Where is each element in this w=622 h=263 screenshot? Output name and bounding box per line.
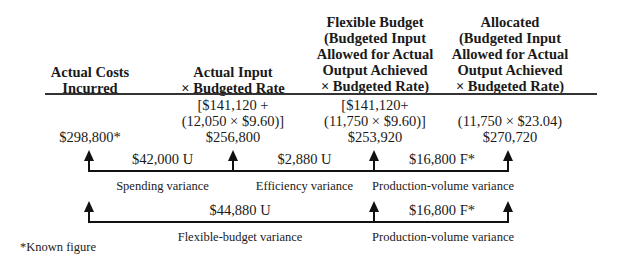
column-header-actual-input: Actual Input × Budgeted Rate	[173, 64, 293, 96]
variance-flexible-budget-amount: $44,880 U	[180, 202, 300, 218]
header-line: Actual Input	[173, 64, 293, 80]
amount-allocated: $270,720	[444, 129, 576, 145]
header-line: Allocated	[444, 14, 576, 30]
computation-flexible-line2: (11,750 × $9.60)]	[309, 113, 441, 129]
computation-flexible-line1: [$141,120+	[309, 97, 441, 113]
column-header-flexible-budget: Flexible Budget (Budgeted Input Allowed …	[309, 14, 441, 94]
header-line: Allowed for Actual	[444, 46, 576, 62]
header-line: × Budgeted Rate)	[444, 78, 576, 94]
footnote: *Known figure	[20, 239, 96, 255]
variance-spending-amount: $42,000 U	[100, 151, 225, 167]
header-line: (Budgeted Input	[309, 30, 441, 46]
bracket-horizontal	[88, 170, 509, 172]
header-line: Output Achieved	[444, 62, 576, 78]
variance-production-volume-label-2: Production-volume variance	[368, 229, 518, 245]
header-line: × Budgeted Rate)	[309, 78, 441, 94]
header-line: Output Achieved	[309, 62, 441, 78]
amount-actual-input: $256,800	[173, 129, 293, 145]
variance-efficiency-amount: $2,880 U	[242, 151, 367, 167]
computation-actual-input-line2: (12,050 × $9.60)]	[173, 113, 293, 129]
header-line: (Budgeted Input	[444, 30, 576, 46]
header-line: Flexible Budget	[309, 14, 441, 30]
variance-flexible-budget-label: Flexible-budget variance	[160, 229, 320, 245]
amount-flexible-budget: $253,920	[309, 129, 441, 145]
header-line: Actual Costs	[40, 64, 140, 80]
computation-actual-input-line1: [$141,120 +	[173, 97, 293, 113]
header-rule	[45, 93, 597, 95]
variance-efficiency-label: Efficiency variance	[242, 178, 367, 194]
bracket-horizontal	[88, 221, 509, 223]
amount-actual-costs: $298,800*	[40, 129, 140, 145]
header-line: Allowed for Actual	[309, 46, 441, 62]
variance-production-volume-amount: $16,800 F*	[383, 151, 501, 167]
variance-production-volume-label: Production-volume variance	[368, 178, 518, 194]
computation-allocated: (11,750 × $23.04)	[444, 113, 576, 129]
column-header-allocated: Allocated (Budgeted Input Allowed for Ac…	[444, 14, 576, 94]
column-header-actual-costs: Actual Costs Incurred	[40, 64, 140, 96]
variance-production-volume-amount-2: $16,800 F*	[383, 202, 501, 218]
variance-spending-label: Spending variance	[100, 178, 225, 194]
